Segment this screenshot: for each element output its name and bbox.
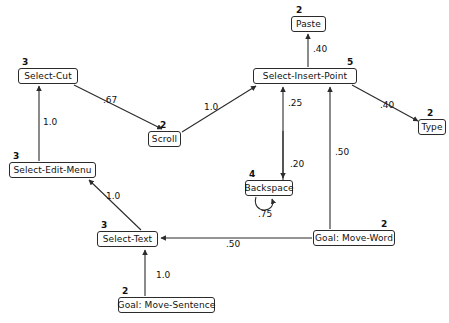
edge-label-goal-move-word-to-select-text: .50 xyxy=(226,240,240,249)
node-count-select-insert-point: 5 xyxy=(347,58,353,67)
edge-label-goal-move-sentence-to-select-text: 1.0 xyxy=(156,271,170,280)
edge-scroll-to-select-insert-point xyxy=(182,86,256,132)
edge-label-select-insert-point-to-backspace: .20 xyxy=(290,160,304,169)
node-select-text[interactable]: Select-Text xyxy=(97,231,158,247)
node-select-cut[interactable]: Select-Cut xyxy=(18,68,78,84)
edge-label-select-edit-menu-to-select-cut: 1.0 xyxy=(43,118,57,127)
node-count-type: 2 xyxy=(427,109,433,118)
edge-select-cut-to-scroll xyxy=(74,85,162,129)
node-count-goal-move-word: 2 xyxy=(381,220,387,229)
edge-label-select-insert-point-to-type: .40 xyxy=(380,101,394,110)
node-scroll[interactable]: Scroll xyxy=(148,131,181,147)
node-goal-move-word[interactable]: Goal: Move-Word xyxy=(313,230,395,246)
edge-label-select-cut-to-scroll: .67 xyxy=(103,96,117,105)
node-count-paste: 2 xyxy=(296,6,302,15)
node-count-select-text: 3 xyxy=(101,221,107,230)
node-goal-move-sentence[interactable]: Goal: Move-Sentence xyxy=(118,297,215,313)
node-count-select-cut: 3 xyxy=(22,58,28,67)
diagram-canvas: 3 2 5 2 2 3 4 3 2 2 Select-Cut Scroll Se… xyxy=(0,0,449,323)
node-count-backspace: 4 xyxy=(249,170,255,179)
node-select-insert-point[interactable]: Select-Insert-Point xyxy=(253,68,357,84)
node-backspace[interactable]: Backspace xyxy=(245,180,293,196)
node-select-edit-menu[interactable]: Select-Edit-Menu xyxy=(9,162,96,178)
edge-label-backspace-self-loop: .75 xyxy=(258,210,272,219)
edge-label-select-text-to-select-edit-menu: 1.0 xyxy=(106,192,120,201)
edge-label-goal-move-word-to-select-insert-point: .50 xyxy=(335,148,349,157)
edge-label-backspace-to-select-insert-point: .25 xyxy=(288,99,302,108)
edge-label-select-insert-point-to-paste: .40 xyxy=(313,45,327,54)
node-type[interactable]: Type xyxy=(418,119,446,135)
node-count-select-edit-menu: 3 xyxy=(13,152,19,161)
edge-label-scroll-to-select-insert-point: 1.0 xyxy=(204,103,218,112)
node-count-scroll: 2 xyxy=(160,121,166,130)
node-count-goal-move-sentence: 2 xyxy=(122,287,128,296)
node-paste[interactable]: Paste xyxy=(291,16,326,32)
edge-select-text-to-select-edit-menu xyxy=(89,180,141,230)
